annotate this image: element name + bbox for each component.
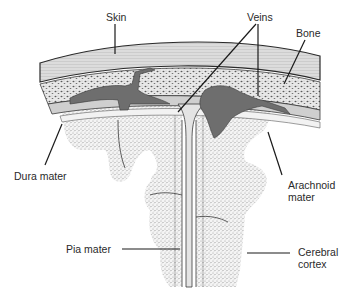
label-dura-mater: Dura mater — [14, 170, 67, 182]
label-veins: Veins — [247, 11, 273, 23]
label-cerebral-cortex: Cerebral cortex — [298, 246, 338, 270]
label-pia-mater: Pia mater — [66, 243, 111, 255]
label-arachnoid-mater: Arachnoid mater — [288, 179, 335, 203]
label-bone: Bone — [296, 27, 321, 39]
label-skin: Skin — [106, 11, 126, 23]
